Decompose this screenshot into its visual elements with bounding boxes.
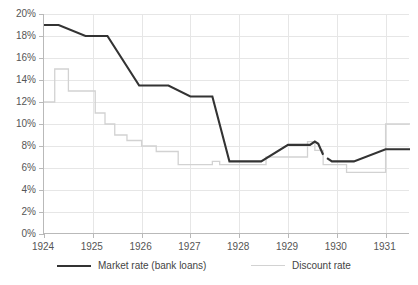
y-axis-tick-label: 6%: [0, 162, 36, 173]
y-axis-tick-label: 8%: [0, 140, 36, 151]
series-line-market-rate: [44, 25, 323, 161]
plot-area: [43, 14, 409, 234]
legend-swatch-market-rate: [57, 265, 91, 267]
x-axis-tick-label: 1925: [72, 241, 112, 252]
x-axis-tick-label: 1931: [365, 241, 405, 252]
y-axis-tick-label: 12%: [0, 96, 36, 107]
chart-legend: Market rate (bank loans) Discount rate: [43, 258, 409, 278]
y-axis-tick-label: 14%: [0, 74, 36, 85]
y-axis-tick-label: 16%: [0, 52, 36, 63]
x-axis-tick-label: 1929: [267, 241, 307, 252]
y-axis-tick-label: 18%: [0, 30, 36, 41]
interest-rate-line-chart: 0%2%4%6%8%10%12%14%16%18%20% 19241925192…: [0, 0, 418, 285]
y-axis-tick-label: 20%: [0, 8, 36, 19]
x-axis-tick-label: 1930: [316, 241, 356, 252]
legend-label-market-rate: Market rate (bank loans): [98, 260, 206, 271]
series-container: [44, 14, 410, 234]
legend-entry-discount-rate: Discount rate: [251, 260, 351, 271]
y-axis-tick-label: 4%: [0, 184, 36, 195]
legend-entry-market-rate: Market rate (bank loans): [57, 260, 206, 271]
y-axis-tick-label: 10%: [0, 118, 36, 129]
legend-swatch-discount-rate: [251, 265, 285, 266]
y-axis-tick-label: 0%: [0, 228, 36, 239]
series-line-market-rate-segment-2: [327, 149, 410, 161]
y-axis-tick-label: 2%: [0, 206, 36, 217]
x-axis-tick-label: 1924: [23, 241, 63, 252]
legend-label-discount-rate: Discount rate: [292, 260, 351, 271]
x-axis-tick-label: 1927: [169, 241, 209, 252]
series-line-discount-rate: [44, 69, 410, 172]
x-axis-tick-label: 1928: [218, 241, 258, 252]
x-axis-tick-label: 1926: [121, 241, 161, 252]
